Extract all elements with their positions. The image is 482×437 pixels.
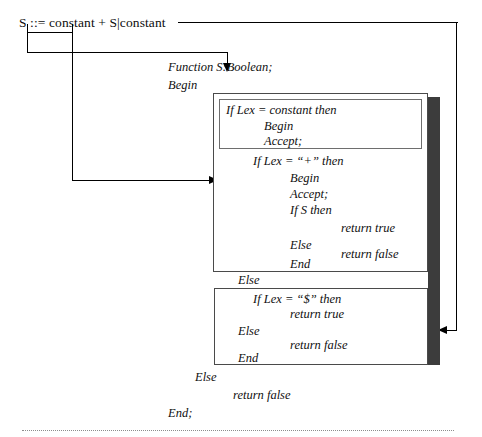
box1-line-2: Accept; (264, 135, 302, 148)
function-signature: Function S:Boolean; (168, 61, 273, 74)
bottom-divider (22, 430, 454, 431)
box2-line-4: return true (341, 222, 395, 235)
figure-canvas: S ::= constant + S|constant Function S:B… (0, 0, 482, 437)
grammar-production-text: S ::= constant + S|constant (19, 15, 166, 31)
grammar-bracket-bar (27, 32, 73, 33)
connector-recursive-right (72, 180, 210, 181)
connector-right-down (456, 22, 457, 331)
connector-recursive-down (72, 32, 73, 181)
box2-line-2: Accept; (290, 188, 328, 201)
box2-line-7: End (290, 258, 310, 271)
box2-line-1: Begin (290, 172, 319, 185)
connector-entry-down-left (27, 32, 28, 53)
box3-line-3: return false (290, 339, 348, 352)
connector-entry-right (27, 52, 228, 53)
box3-line-0: If Lex = “$” then (253, 293, 341, 306)
connector-return-left (447, 330, 457, 331)
box3-line-2: Else (238, 325, 260, 338)
connector-top-right (178, 22, 458, 23)
outer-return-false: return false (233, 389, 291, 402)
function-begin: Begin (168, 79, 197, 92)
box2-line-0: If Lex = “+” then (253, 155, 343, 168)
box2-line-3: If S then (290, 204, 332, 217)
box2-line-6: return false (341, 248, 399, 261)
function-end: End; (168, 407, 192, 420)
box1-line-1: Begin (264, 120, 293, 133)
box3-line-4: End (238, 352, 258, 365)
outer-else: Else (195, 371, 217, 384)
box-shadow-bar (428, 97, 440, 365)
box1-line-0: If Lex = constant then (226, 104, 337, 117)
box3-line-1: return true (290, 308, 344, 321)
box2-line-5: Else (290, 239, 312, 252)
else-between-boxes: Else (238, 274, 260, 287)
